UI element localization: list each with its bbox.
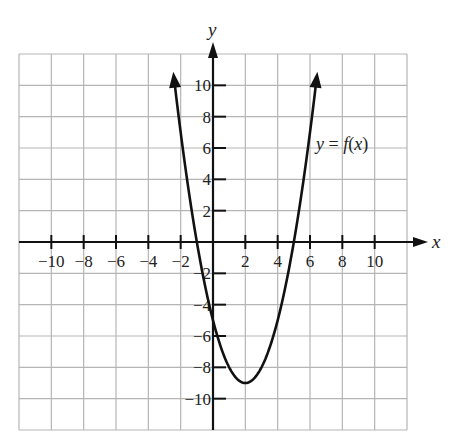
y-tick-label: 6: [203, 139, 212, 158]
x-axis-label: x: [431, 231, 441, 252]
x-tick-label: −2: [172, 252, 190, 271]
x-tick-label: 6: [306, 252, 315, 271]
x-tick-label: 2: [241, 252, 250, 271]
y-tick-label: 8: [203, 108, 212, 127]
y-tick-label: 4: [203, 170, 212, 189]
y-tick-label: −8: [193, 358, 211, 377]
x-tick-label: 4: [273, 252, 282, 271]
y-tick-label: −10: [184, 390, 211, 409]
y-axis-label: y: [206, 19, 217, 40]
x-tick-label: 8: [338, 252, 347, 271]
curve-arrow-icon: [310, 72, 322, 89]
y-axis-arrow-icon: [208, 42, 218, 58]
x-tick-label: −8: [75, 252, 93, 271]
x-tick-label: −6: [107, 252, 125, 271]
y-tick-label: 2: [203, 202, 212, 221]
x-axis-arrow-icon: [413, 237, 428, 247]
coordinate-plane: −10−8−6−4−2246810 108642−2−4−6−8−10 x y …: [0, 0, 452, 442]
function-label: y = f(x): [314, 134, 368, 155]
x-tick-label: −10: [38, 252, 65, 271]
x-tick-label: −4: [139, 252, 158, 271]
axes: [19, 42, 428, 430]
x-tick-label: 10: [366, 252, 383, 271]
curve-arrow-icon: [169, 72, 181, 89]
y-tick-label: −6: [193, 327, 211, 346]
y-tick-label: 10: [194, 76, 211, 95]
